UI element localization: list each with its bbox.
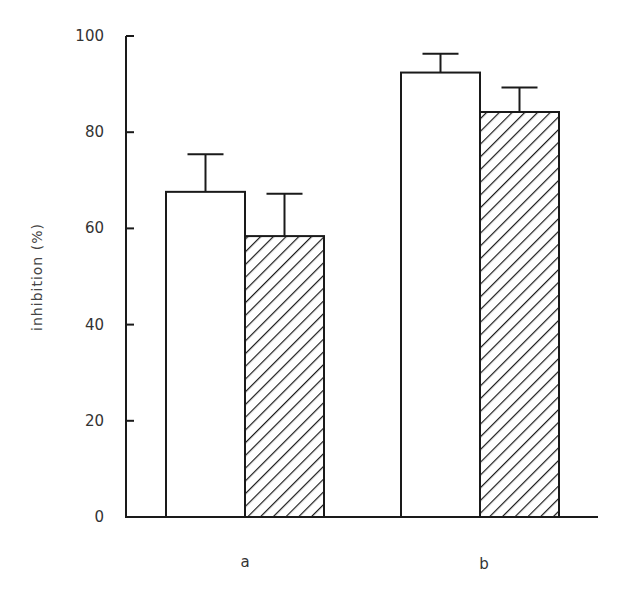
y-tick-label: 0	[94, 508, 104, 526]
y-tick-label: 20	[85, 412, 104, 430]
bar-a-hatched	[245, 236, 324, 517]
x-axis: a b	[125, 517, 598, 573]
bar-chart: 020406080100 a b inhibition (%)	[0, 0, 617, 593]
x-tick-label-a: a	[240, 553, 249, 571]
y-axis: 020406080100	[75, 27, 134, 526]
y-axis-label: inhibition (%)	[29, 223, 45, 331]
y-tick-label: 60	[85, 219, 104, 237]
bar-a-open	[166, 192, 245, 517]
y-tick-label: 80	[85, 123, 104, 141]
y-tick-label: 100	[75, 27, 104, 45]
bar-b-open	[401, 73, 480, 517]
y-tick-label: 40	[85, 316, 104, 334]
bar-b-hatched	[480, 112, 559, 517]
x-tick-label-b: b	[479, 555, 489, 573]
bars-group	[166, 54, 559, 517]
